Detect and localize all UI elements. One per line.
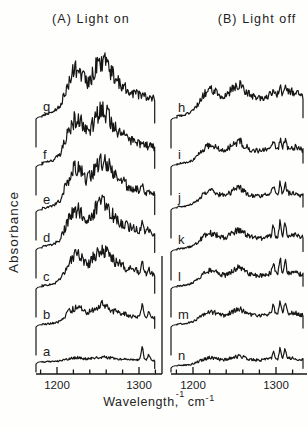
curve-label-b: b [43, 307, 50, 322]
spectra-plot: 12001300gfedcba12001300hijklmn [0, 0, 308, 428]
spectrum-curve-d [36, 195, 155, 278]
curve-label-d: d [43, 230, 50, 245]
spectra-figure: (A) Light on (B) Light off Absorbance 12… [0, 0, 308, 428]
tick-label-B-1300: 1300 [263, 379, 289, 391]
curve-label-e: e [43, 192, 50, 207]
spectrum-curve-m [171, 301, 303, 355]
curve-label-n: n [178, 348, 185, 363]
curve-label-g: g [43, 99, 50, 114]
spectrum-curve-f [36, 102, 155, 195]
curve-label-a: a [43, 344, 51, 359]
x-axis-title-word: Wavelength [103, 395, 175, 409]
x-axis-title-unit-exponent: -1 [206, 393, 215, 403]
curve-label-k: k [178, 232, 185, 247]
spectrum-curve-n [171, 347, 303, 372]
spectrum-curve-b [36, 301, 155, 356]
spectrum-curve-h [171, 81, 303, 148]
x-axis-title: Wavelength-1,cm-1 [0, 393, 308, 409]
x-axis-title-unit: cm [188, 395, 206, 409]
tick-label-A-1200: 1200 [44, 379, 70, 391]
curve-label-c: c [43, 269, 50, 284]
curve-label-i: i [178, 147, 181, 162]
spectrum-curve-g [36, 53, 155, 147]
spectrum-curve-c [36, 245, 155, 317]
curve-label-f: f [43, 147, 47, 162]
spectrum-curve-a [36, 347, 155, 373]
tick-label-A-1300: 1300 [126, 379, 152, 391]
curve-label-m: m [178, 307, 189, 322]
curve-label-l: l [178, 269, 181, 284]
curve-label-j: j [177, 190, 181, 205]
x-axis-title-exponent-comma: -1, [175, 394, 184, 406]
curve-label-h: h [178, 100, 185, 115]
